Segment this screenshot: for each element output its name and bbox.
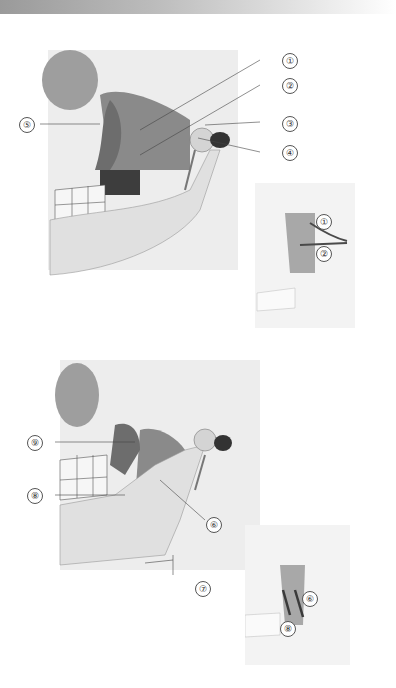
ear-canal [210,132,230,148]
skull-inset-lower [245,525,350,665]
callout-9: ⑨ [27,435,43,451]
skull-inset-upper [255,183,355,328]
callout-3: ③ [282,116,298,132]
inset-callout-8: ⑧ [280,621,296,637]
inset-callout-2: ② [316,246,332,262]
inset-callout-1: ① [316,214,332,230]
callout-4: ④ [282,145,298,161]
orbit [42,50,98,110]
skull-illustration-lower [55,355,265,575]
oral-cavity [100,170,140,195]
inset-illustration-lower [245,525,350,665]
skull-figure-lower [55,355,265,575]
callout-1: ① [282,53,298,69]
callout-7: ⑦ [195,581,211,597]
page-header-band [0,0,396,14]
callout-2: ② [282,78,298,94]
inset-callout-6: ⑥ [302,591,318,607]
callout-8: ⑧ [27,488,43,504]
callout-5: ⑤ [19,117,35,133]
callout-6: ⑥ [206,517,222,533]
inset-illustration-upper [255,183,355,328]
